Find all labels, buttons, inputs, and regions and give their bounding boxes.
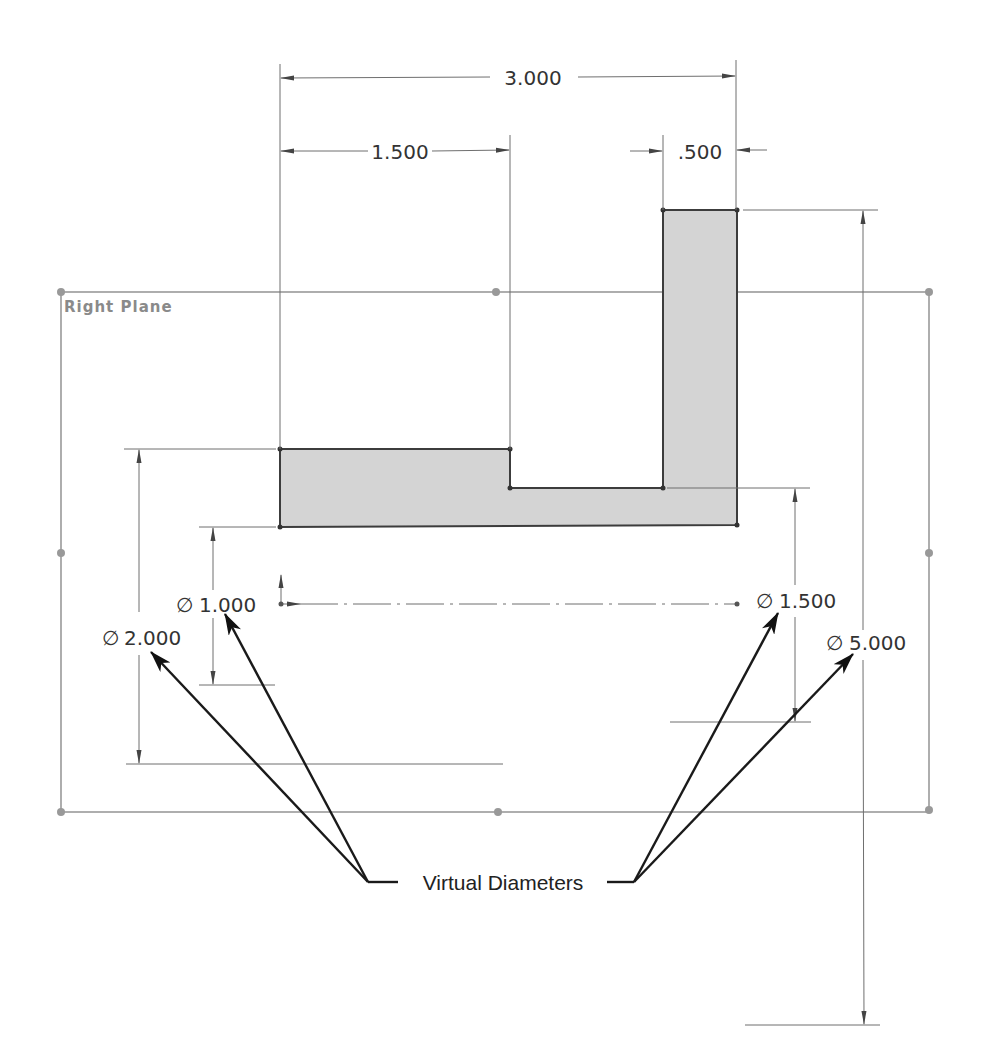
plane-handle[interactable] — [494, 808, 502, 816]
plane-label: Right Plane — [64, 298, 173, 316]
plane-handle[interactable] — [492, 288, 500, 296]
dimension-value[interactable]: .500 — [678, 140, 723, 164]
sketch-canvas: Right Plane 3.000 1.500 — [0, 0, 987, 1052]
dimension-value[interactable]: 1.500 — [779, 589, 836, 613]
revolve-axis-centerline[interactable] — [279, 575, 740, 607]
plane-handle[interactable] — [925, 288, 933, 296]
sketch-profile[interactable] — [278, 208, 740, 530]
dimension-value[interactable]: 3.000 — [504, 66, 561, 90]
plane-handle[interactable] — [925, 806, 933, 814]
dimension-dia-4-line — [863, 211, 864, 1024]
diameter-symbol: ∅ — [102, 626, 119, 650]
diameter-symbol: ∅ — [176, 593, 193, 617]
callout-leaders — [151, 613, 853, 882]
dimension-dia-1[interactable]: ∅ 1.000 — [176, 593, 256, 617]
right-plane[interactable] — [57, 288, 933, 816]
dimension-value[interactable]: 1.500 — [371, 140, 428, 164]
plane-handle[interactable] — [57, 549, 65, 557]
dimension-dia-3[interactable]: ∅ 1.500 — [756, 589, 836, 613]
dimension-value[interactable]: 5.000 — [849, 631, 906, 655]
diameter-symbol: ∅ — [826, 631, 843, 655]
plane-handle[interactable] — [57, 808, 65, 816]
dimension-right-wall-thickness[interactable]: .500 — [630, 140, 767, 164]
diameter-symbol: ∅ — [756, 589, 773, 613]
plane-handle[interactable] — [925, 549, 933, 557]
dimension-dia-4[interactable]: ∅ 5.000 — [826, 631, 906, 655]
dimension-dia-2[interactable]: ∅ 2.000 — [102, 626, 181, 650]
callout-label: Virtual Diameters — [423, 871, 584, 894]
dimension-value[interactable]: 1.000 — [199, 593, 256, 617]
dimension-left-flange-width[interactable]: 1.500 — [281, 140, 509, 164]
dimension-overall-width[interactable]: 3.000 — [281, 66, 735, 90]
dimension-value[interactable]: 2.000 — [124, 626, 181, 650]
plane-handle[interactable] — [57, 288, 65, 296]
